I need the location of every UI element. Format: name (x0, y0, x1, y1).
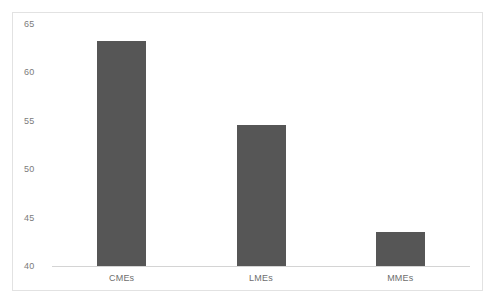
x-axis-tick-label: LMEs (191, 271, 330, 285)
x-axis: CMEsLMEsMMEs (52, 271, 470, 289)
category-axis-line (52, 266, 470, 267)
x-axis-tick-label: CMEs (52, 271, 191, 285)
plot-area (52, 24, 470, 266)
bar (97, 41, 146, 266)
bar (376, 232, 425, 266)
x-axis-tick-label: MMEs (331, 271, 470, 285)
bar-chart-figure: 404550556065 CMEsLMEsMMEs (0, 0, 498, 304)
bar (237, 125, 286, 266)
